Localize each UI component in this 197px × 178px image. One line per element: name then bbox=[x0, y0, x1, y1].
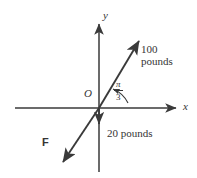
force-vector-arrow bbox=[63, 108, 99, 162]
angle-label: π 3 bbox=[114, 80, 123, 102]
x-axis-label: x bbox=[183, 101, 188, 113]
fraction-bar bbox=[114, 90, 123, 91]
resultant-magnitude-unit: pounds bbox=[141, 56, 173, 68]
diagram-canvas bbox=[0, 0, 197, 178]
resultant-magnitude-value: 100 bbox=[141, 43, 158, 55]
y-axis-label: y bbox=[103, 10, 108, 22]
angle-denominator: 3 bbox=[114, 92, 123, 102]
angle-numerator: π bbox=[114, 80, 123, 90]
force-vector-diagram: y x O π 3 100 pounds 20 pounds F bbox=[0, 0, 197, 178]
force-vector-label: F bbox=[42, 137, 49, 149]
resultant-magnitude-label: 100 pounds bbox=[141, 44, 173, 67]
origin-label: O bbox=[84, 88, 92, 100]
weight-magnitude-label: 20 pounds bbox=[107, 128, 153, 140]
